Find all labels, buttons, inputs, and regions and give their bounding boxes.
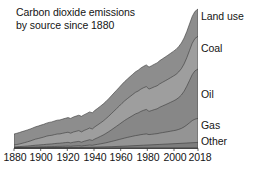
series-label-coal: Coal	[201, 43, 222, 54]
series-label-other: Other	[201, 136, 227, 147]
series-label-gas: Gas	[201, 120, 220, 131]
x-axis-tick-labels: 1880 1900 1920 1940 1960 1980 2000 2018	[0, 151, 255, 165]
series-label-land-use: Land use	[201, 11, 244, 22]
x-tick-label-1980: 1980	[137, 151, 160, 163]
x-tick-label-1900: 1900	[30, 151, 53, 163]
x-tick-label-1960: 1960	[110, 151, 133, 163]
series-label-oil: Oil	[201, 89, 214, 100]
x-tick-label-1940: 1940	[84, 151, 107, 163]
x-tick-label-2000: 2000	[164, 151, 187, 163]
x-tick-label-2018: 2018	[189, 151, 212, 163]
area-bands-group	[14, 9, 198, 148]
chart-figure: Carbon dioxide emissions by source since…	[0, 0, 255, 175]
x-tick-label-1920: 1920	[57, 151, 80, 163]
x-tick-label-1880: 1880	[4, 151, 27, 163]
stacked-area-plot	[0, 0, 255, 175]
